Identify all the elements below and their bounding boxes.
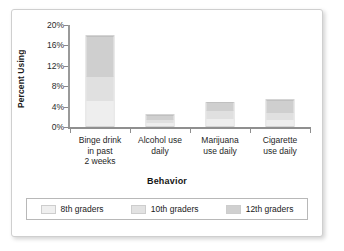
plot-wrapper: Percent Using 20% 16% 12% 8% 4% 0%	[12, 10, 322, 190]
bar-segment-8th-graders	[207, 119, 234, 126]
x-category-line: 2 weeks	[67, 156, 133, 167]
y-axis-tick-labels: 20% 16% 12% 8% 4% 0%	[28, 10, 64, 190]
figure-card: Percent Using 20% 16% 12% 8% 4% 0%	[11, 9, 323, 237]
chart-legend: 8th graders 10th graders 12th graders	[26, 198, 308, 220]
x-category-line: Marijuana	[187, 135, 253, 146]
x-category-line: daily	[127, 146, 193, 157]
legend-swatch-icon	[226, 205, 241, 214]
x-category-line: Alcohol use	[127, 135, 193, 146]
x-axis-title: Behavior	[12, 176, 322, 186]
stacked-bar[interactable]	[266, 99, 295, 127]
bar-segment-8th-graders	[147, 123, 174, 126]
bar-group-cigarette-use-daily	[250, 25, 310, 127]
bar-segment-12th-graders	[87, 36, 114, 76]
y-tick-label-4: 4%	[30, 103, 64, 111]
y-tick-label-16: 16%	[30, 41, 64, 49]
x-category-label-alcohol-use-daily: Alcohol use daily	[127, 135, 193, 156]
legend-item-8th-graders[interactable]: 8th graders	[41, 204, 104, 214]
legend-swatch-icon	[41, 205, 56, 214]
stacked-bar[interactable]	[86, 35, 115, 127]
legend-label: 12th graders	[246, 204, 294, 214]
x-category-label-cigarette-use-daily: Cigarette use daily	[247, 135, 313, 156]
y-axis-title: Percent Using	[16, 36, 28, 122]
x-category-line: Cigarette	[247, 135, 313, 146]
y-tick-label-0: 0%	[30, 123, 64, 131]
x-category-line: use daily	[247, 146, 313, 157]
bar-segment-12th-graders	[267, 100, 294, 112]
bar-group-binge-drink	[70, 25, 130, 127]
stacked-bar[interactable]	[206, 102, 235, 128]
bar-segment-8th-graders	[267, 120, 294, 126]
bar-segment-12th-graders	[207, 102, 234, 109]
legend-swatch-icon	[131, 205, 146, 214]
legend-label: 10th graders	[151, 204, 199, 214]
legend-label: 8th graders	[61, 204, 104, 214]
legend-item-10th-graders[interactable]: 10th graders	[131, 204, 199, 214]
bar-segment-10th-graders	[267, 112, 294, 121]
x-tick-mark-1	[130, 129, 131, 133]
y-tick-label-20: 20%	[30, 21, 64, 29]
plot-area	[70, 25, 311, 127]
stacked-bar[interactable]	[146, 114, 175, 127]
x-tick-mark-0	[70, 129, 71, 133]
x-tick-mark-3	[250, 129, 251, 133]
bar-segment-8th-graders	[87, 101, 114, 126]
x-category-line: Binge drink	[67, 135, 133, 146]
bar-group-alcohol-use-daily	[130, 25, 190, 127]
x-category-line: in past	[67, 146, 133, 157]
x-category-label-marijuana-use-daily: Marijuana use daily	[187, 135, 253, 156]
x-category-line: use daily	[187, 146, 253, 157]
bar-group-marijuana-use-daily	[190, 25, 250, 127]
x-tick-mark-4	[310, 129, 311, 133]
y-tick-label-8: 8%	[30, 82, 64, 90]
x-category-label-binge-drink: Binge drink in past 2 weeks	[67, 135, 133, 167]
legend-item-12th-graders[interactable]: 12th graders	[226, 204, 294, 214]
x-tick-mark-2	[190, 129, 191, 133]
bar-segment-10th-graders	[207, 110, 234, 119]
bar-segment-10th-graders	[87, 76, 114, 101]
y-tick-label-12: 12%	[30, 62, 64, 70]
